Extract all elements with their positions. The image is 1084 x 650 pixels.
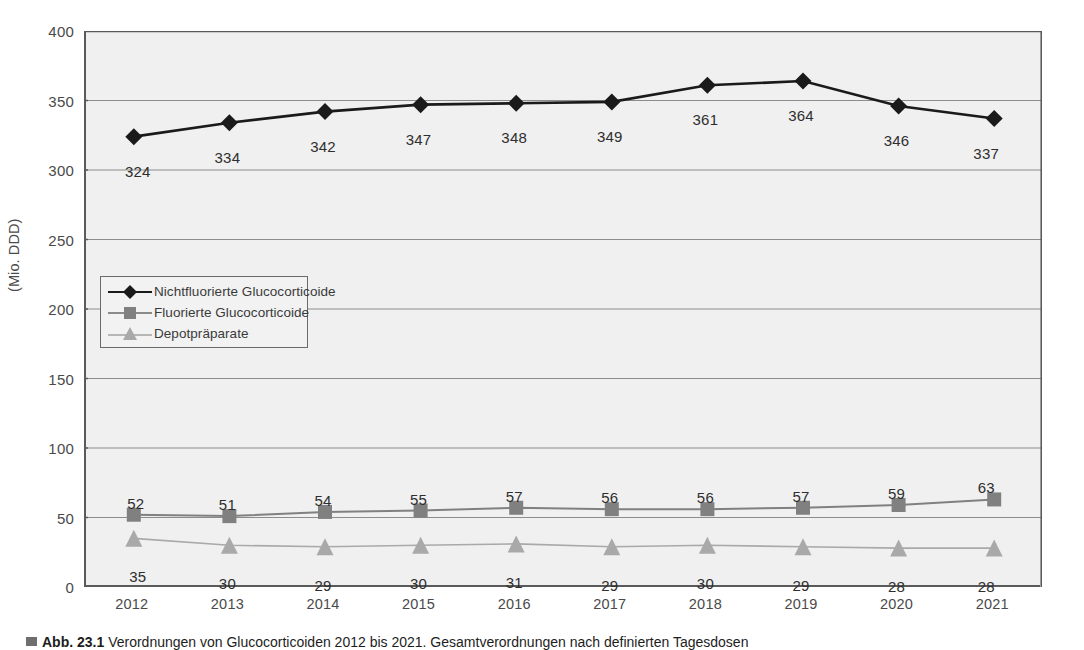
x-tick-label: 2016 xyxy=(498,596,531,612)
square-marker-icon xyxy=(106,303,154,323)
x-tick-label: 2012 xyxy=(115,596,148,612)
caption-marker-icon xyxy=(26,637,37,646)
caption-number: Abb. 23.1 xyxy=(42,634,104,650)
x-tick-label: 2015 xyxy=(402,596,435,612)
chart-legend: Nichtfluorierte Glucocorticoide Fluorier… xyxy=(100,276,308,348)
legend-entry-depot: Depotpräparate xyxy=(106,323,301,344)
x-tick-label: 2013 xyxy=(211,596,244,612)
legend-label-depot: Depotpräparate xyxy=(154,326,249,341)
figure-caption: Abb. 23.1 Verordnungen von Glucocorticoi… xyxy=(26,634,1066,650)
legend-entry-nichtfluorierte: Nichtfluorierte Glucocorticoide xyxy=(106,281,301,302)
caption-text: Verordnungen von Glucocorticoiden 2012 b… xyxy=(108,634,748,650)
triangle-marker-icon xyxy=(106,324,154,344)
x-tick-label: 2017 xyxy=(593,596,626,612)
x-tick-label: 2020 xyxy=(880,596,913,612)
legend-label-nichtfluorierte: Nichtfluorierte Glucocorticoide xyxy=(154,284,336,299)
x-tick-label: 2014 xyxy=(306,596,339,612)
x-tick-label: 2018 xyxy=(689,596,722,612)
legend-entry-fluorierte: Fluorierte Glucocorticoide xyxy=(106,302,301,323)
legend-label-fluorierte: Fluorierte Glucocorticoide xyxy=(154,305,309,320)
x-tick-label: 2021 xyxy=(976,596,1009,612)
diamond-marker-icon xyxy=(106,282,154,302)
x-tick-label: 2019 xyxy=(784,596,817,612)
